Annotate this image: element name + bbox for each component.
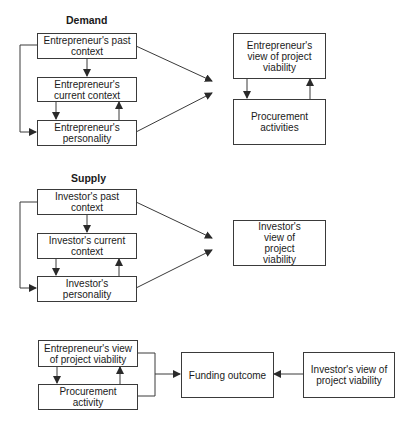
outcome-procurement-activity-box: Procurement activity bbox=[38, 384, 138, 410]
entrepreneur-past-context-box: Entrepreneur's past context bbox=[37, 33, 137, 59]
outcome-investor-view-box: Investor's view of project viability bbox=[303, 352, 395, 398]
entrepreneur-view-box: Entrepreneur's view of project viability bbox=[233, 33, 326, 79]
investor-past-context-box: Investor's past context bbox=[37, 189, 137, 215]
investor-current-context-box: Investor's current context bbox=[37, 233, 137, 259]
supply-title: Supply bbox=[71, 172, 106, 184]
entrepreneur-current-context-box: Entrepreneur's current context bbox=[37, 77, 137, 102]
procurement-activities-box: Procurement activities bbox=[233, 99, 326, 145]
demand-title: Demand bbox=[66, 14, 107, 26]
investor-personality-box: Investor's personality bbox=[37, 276, 137, 302]
outcome-entrepreneur-view-box: Entrepreneur's view of project viability bbox=[38, 340, 138, 367]
investor-view-box: Investor's view of project viability bbox=[233, 220, 326, 266]
entrepreneur-personality-box: Entrepreneur's personality bbox=[37, 120, 137, 146]
diagram-canvas: Demand Entrepreneur's past context Entre… bbox=[0, 0, 410, 426]
funding-outcome-box: Funding outcome bbox=[181, 352, 274, 398]
